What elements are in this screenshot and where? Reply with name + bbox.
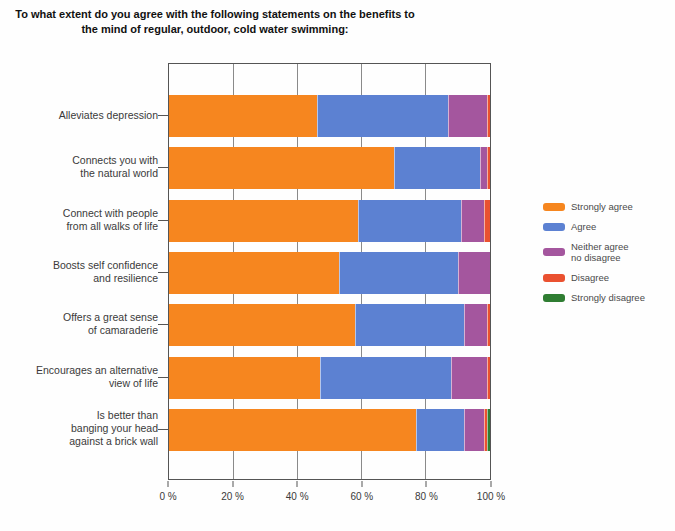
category-label: Alleviates depression <box>6 94 158 136</box>
bar-segment-disagree <box>484 200 490 242</box>
x-tick <box>168 481 169 487</box>
legend-swatch-icon <box>543 203 565 211</box>
bar-segment-agree <box>416 409 464 451</box>
category-label: Offers a great sense of camaraderie <box>6 303 158 345</box>
bar-segment-agree <box>358 200 461 242</box>
bar-segment-agree <box>317 95 449 137</box>
survey-chart: To what extent do you agree with the fol… <box>0 0 675 531</box>
x-tick <box>232 481 233 487</box>
x-tick-label: 40 % <box>286 491 309 502</box>
category-tick <box>158 272 168 273</box>
legend-swatch-icon <box>543 274 565 282</box>
x-tick-label: 80 % <box>415 491 438 502</box>
legend: Strongly agreeAgreeNeither agree no disa… <box>543 201 645 303</box>
bar-segment-disagree <box>487 147 490 189</box>
bar-segment-strongly-agree <box>169 147 394 189</box>
legend-swatch-icon <box>543 223 565 231</box>
x-tick-label: 20 % <box>221 491 244 502</box>
bar-segment-disagree <box>487 357 490 399</box>
bar-segment-strongly-agree <box>169 252 339 294</box>
bar-segment-agree <box>394 147 481 189</box>
category-tick <box>158 429 168 430</box>
x-tick <box>361 481 362 487</box>
bar-segment-disagree <box>487 95 490 137</box>
bar-segment-agree <box>355 304 464 346</box>
bar-row <box>169 200 490 242</box>
legend-item: Strongly agree <box>543 201 645 212</box>
legend-label: Strongly agree <box>571 201 633 212</box>
bar-row <box>169 95 490 137</box>
legend-swatch-icon <box>543 248 565 256</box>
legend-label: Agree <box>571 221 596 232</box>
category-label: Is better than banging your head against… <box>6 408 158 450</box>
bar-segment-strongly-agree <box>169 357 320 399</box>
plot-area <box>168 63 491 480</box>
bar-row <box>169 409 490 451</box>
bar-row <box>169 147 490 189</box>
legend-label: Strongly disagree <box>571 292 645 303</box>
x-tick-label: 60 % <box>350 491 373 502</box>
category-tick <box>158 220 168 221</box>
bar-segment-neither-agree-no-disagree <box>464 304 486 346</box>
bar-row <box>169 304 490 346</box>
bar-segment-strongly-agree <box>169 304 355 346</box>
bar-segment-neither-agree-no-disagree <box>451 357 486 399</box>
chart-title: To what extent do you agree with the fol… <box>0 7 430 36</box>
category-tick <box>158 324 168 325</box>
bar-segment-disagree <box>487 304 490 346</box>
bar-segment-strongly-disagree <box>487 409 490 451</box>
legend-item: Strongly disagree <box>543 292 645 303</box>
x-tick-label: 0 % <box>159 491 176 502</box>
legend-item: Agree <box>543 221 645 232</box>
legend-swatch-icon <box>543 294 565 302</box>
x-tick <box>426 481 427 487</box>
bar-segment-strongly-agree <box>169 95 317 137</box>
x-tick <box>297 481 298 487</box>
category-label: Encourages an alternative view of life <box>6 356 158 398</box>
category-label: Connects you with the natural world <box>6 146 158 188</box>
bar-segment-strongly-agree <box>169 200 358 242</box>
bar-segment-agree <box>339 252 458 294</box>
category-tick <box>158 167 168 168</box>
x-tick <box>491 481 492 487</box>
legend-label: Disagree <box>571 272 609 283</box>
bar-row <box>169 252 490 294</box>
legend-label: Neither agree no disagree <box>571 241 629 263</box>
bar-segment-neither-agree-no-disagree <box>448 95 487 137</box>
legend-item: Neither agree no disagree <box>543 241 645 263</box>
x-tick-label: 100 % <box>477 491 505 502</box>
bar-segment-neither-agree-no-disagree <box>458 252 490 294</box>
bar-segment-agree <box>320 357 452 399</box>
legend-item: Disagree <box>543 272 645 283</box>
bar-segment-neither-agree-no-disagree <box>464 409 483 451</box>
category-tick <box>158 115 168 116</box>
bar-segment-neither-agree-no-disagree <box>461 200 483 242</box>
bar-segment-strongly-agree <box>169 409 416 451</box>
category-label: Connect with people from all walks of li… <box>6 199 158 241</box>
category-tick <box>158 377 168 378</box>
bar-row <box>169 357 490 399</box>
category-label: Boosts self confidence and resilience <box>6 251 158 293</box>
